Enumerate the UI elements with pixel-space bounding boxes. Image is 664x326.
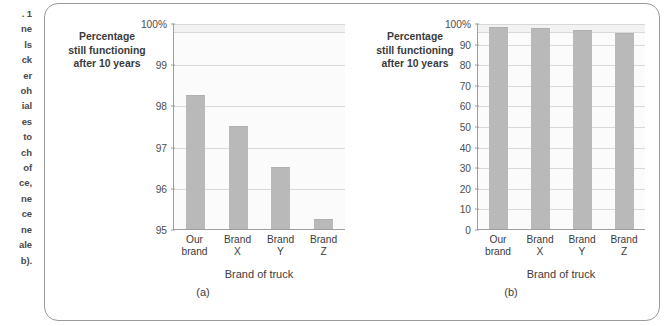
x-category-label-line: brand bbox=[173, 246, 216, 258]
y-axis-caption-line: Percentage bbox=[53, 30, 161, 44]
plot-area-a bbox=[173, 24, 345, 230]
x-category-label-line: Y bbox=[259, 246, 302, 258]
y-tick-label: 100% bbox=[141, 19, 167, 30]
x-category-label-line: brand bbox=[477, 246, 519, 258]
x-category-label-line: Brand bbox=[216, 234, 259, 246]
margin-text-line: er bbox=[0, 68, 34, 83]
margin-text-line: oh bbox=[0, 83, 34, 98]
plot-a: 100%9998979695OurbrandBrandXBrandYBrandZ… bbox=[173, 24, 345, 264]
x-axis-categories-b: OurbrandBrandXBrandYBrandZ bbox=[477, 234, 645, 259]
y-axis-caption-a: Percentagestill functioningafter 10 year… bbox=[53, 30, 161, 71]
margin-text-line: ne bbox=[0, 191, 34, 206]
margin-text-line: . 1 bbox=[0, 6, 34, 21]
margin-text-line: ce bbox=[0, 206, 34, 221]
bar-slot bbox=[520, 23, 562, 229]
margin-text-line: to bbox=[0, 129, 34, 144]
margin-text-line: ial bbox=[0, 98, 34, 113]
margin-text-line: ls bbox=[0, 37, 34, 52]
y-tick-mark bbox=[475, 147, 479, 148]
x-category-label: BrandY bbox=[259, 234, 302, 259]
y-axis-caption-line: after 10 years bbox=[53, 57, 161, 71]
y-tick-label: 98 bbox=[156, 101, 167, 112]
x-category-label: BrandZ bbox=[302, 234, 345, 259]
bar bbox=[573, 30, 592, 229]
x-axis-title-b: Brand of truck bbox=[477, 268, 645, 280]
margin-text-line: ne bbox=[0, 21, 34, 36]
panel-caption-a: (a) bbox=[45, 286, 361, 298]
x-category-label-line: Z bbox=[302, 246, 345, 258]
bar-slot bbox=[174, 23, 217, 229]
y-tick-label: 90 bbox=[460, 39, 471, 50]
x-category-label: BrandY bbox=[561, 234, 603, 259]
bar-slot bbox=[478, 23, 520, 229]
y-axis-caption-line: Percentage bbox=[361, 30, 469, 44]
y-axis-caption-line: still functioning bbox=[53, 44, 161, 58]
y-tick-mark bbox=[475, 209, 479, 210]
x-category-label: BrandX bbox=[216, 234, 259, 259]
x-category-label-line: Z bbox=[603, 246, 645, 258]
x-category-label-line: Brand bbox=[603, 234, 645, 246]
bar-slot bbox=[562, 23, 604, 229]
x-category-label: Ourbrand bbox=[477, 234, 519, 259]
y-tick-mark bbox=[171, 147, 175, 148]
x-category-label-line: Brand bbox=[519, 234, 561, 246]
margin-text-line: b). bbox=[0, 253, 34, 268]
page-margin-text: . 1nelsckerohialestochofce,necenealeb). bbox=[0, 0, 34, 326]
x-category-label-line: Our bbox=[477, 234, 519, 246]
y-tick-mark bbox=[475, 168, 479, 169]
margin-text-line: ch bbox=[0, 145, 34, 160]
margin-text-line: of bbox=[0, 160, 34, 175]
y-tick-label: 100% bbox=[445, 19, 471, 30]
bar-slot bbox=[302, 23, 345, 229]
y-tick-mark bbox=[171, 188, 175, 189]
bar-slot bbox=[603, 23, 645, 229]
y-tick-label: 0 bbox=[465, 225, 471, 236]
margin-text-line: ce, bbox=[0, 175, 34, 190]
y-tick-mark bbox=[475, 44, 479, 45]
y-tick-mark bbox=[171, 24, 175, 25]
y-tick-label: 97 bbox=[156, 142, 167, 153]
y-tick-mark bbox=[475, 85, 479, 86]
y-tick-mark bbox=[475, 106, 479, 107]
figure-card: Percentagestill functioningafter 10 year… bbox=[44, 3, 660, 321]
y-axis-caption-line: still functioning bbox=[361, 44, 469, 58]
bar-slot bbox=[260, 23, 303, 229]
y-tick-label: 20 bbox=[460, 183, 471, 194]
y-tick-mark bbox=[171, 106, 175, 107]
x-category-label: Ourbrand bbox=[173, 234, 216, 259]
y-tick-mark bbox=[475, 65, 479, 66]
y-tick-label: 99 bbox=[156, 60, 167, 71]
bar bbox=[489, 27, 508, 229]
x-axis-categories-a: OurbrandBrandXBrandYBrandZ bbox=[173, 234, 345, 259]
x-category-label: BrandX bbox=[519, 234, 561, 259]
x-category-label: BrandZ bbox=[603, 234, 645, 259]
x-category-label-line: Brand bbox=[302, 234, 345, 246]
y-tick-label: 80 bbox=[460, 60, 471, 71]
y-tick-label: 70 bbox=[460, 80, 471, 91]
y-tick-label: 96 bbox=[156, 183, 167, 194]
y-tick-mark bbox=[475, 24, 479, 25]
y-tick-label: 50 bbox=[460, 122, 471, 133]
bar bbox=[615, 33, 634, 229]
bar bbox=[229, 126, 248, 229]
margin-text-line: ne bbox=[0, 222, 34, 237]
plot-area-b bbox=[477, 24, 645, 230]
bar-series-a bbox=[174, 23, 345, 229]
y-tick-mark bbox=[475, 188, 479, 189]
bar-slot bbox=[217, 23, 260, 229]
x-category-label-line: Y bbox=[561, 246, 603, 258]
x-category-label-line: Our bbox=[173, 234, 216, 246]
x-category-label-line: X bbox=[519, 246, 561, 258]
chart-panel-b: Percentagestill functioningafter 10 year… bbox=[361, 4, 661, 322]
y-tick-label: 30 bbox=[460, 163, 471, 174]
x-category-label-line: Brand bbox=[561, 234, 603, 246]
bar bbox=[314, 219, 333, 229]
x-axis-title-a: Brand of truck bbox=[173, 268, 345, 280]
y-tick-label: 40 bbox=[460, 142, 471, 153]
y-tick-mark bbox=[475, 127, 479, 128]
bar bbox=[531, 28, 550, 229]
margin-text-line: ck bbox=[0, 52, 34, 67]
bar-series-b bbox=[478, 23, 645, 229]
bar bbox=[271, 167, 290, 229]
y-axis-caption-line: after 10 years bbox=[361, 57, 469, 71]
